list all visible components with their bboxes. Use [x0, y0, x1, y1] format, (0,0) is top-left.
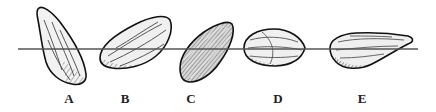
label-c: C	[186, 91, 195, 107]
label-d: D	[273, 91, 282, 107]
label-b: B	[121, 91, 130, 107]
label-a: A	[64, 91, 73, 107]
seed-d	[244, 29, 305, 66]
seed-figure: A B C D E	[0, 0, 436, 112]
seed-b	[100, 17, 171, 69]
label-e: E	[358, 91, 367, 107]
seed-a	[37, 7, 86, 84]
seed-c	[180, 22, 233, 82]
seed-e	[330, 33, 413, 69]
